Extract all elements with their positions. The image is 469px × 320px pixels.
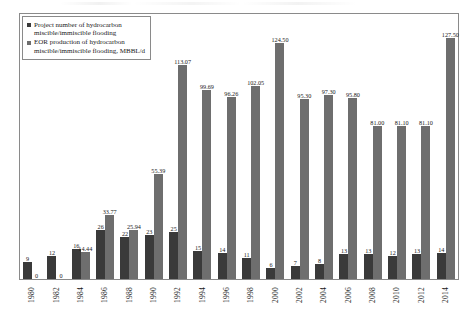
bar-value-label: 9	[26, 255, 29, 262]
legend-swatch-project-number	[27, 23, 31, 27]
bar-value-label: 81.00	[370, 119, 384, 126]
x-axis-tick-label: 2000	[264, 282, 288, 301]
x-axis-tick-label: 1996	[215, 282, 239, 301]
bar-project-number[interactable]	[169, 232, 178, 279]
bar-value-label: 11	[244, 251, 250, 258]
bar-project-number[interactable]	[388, 256, 397, 279]
bar-project-number[interactable]	[364, 254, 373, 279]
bar-project-number[interactable]	[96, 230, 105, 279]
bar-eor-production[interactable]	[227, 97, 236, 279]
bar-eor-production[interactable]	[324, 95, 333, 279]
bar-eor-production[interactable]	[105, 215, 114, 279]
bar-eor-production[interactable]	[397, 126, 406, 280]
bar-value-label: 25	[171, 225, 177, 232]
bar-eor-production[interactable]	[251, 86, 260, 279]
bar-value-label: 0	[35, 272, 38, 279]
bar-slot-eor-production: 127.50	[446, 38, 455, 279]
bar-project-number[interactable]	[47, 256, 56, 279]
bar-slot-eor-production: 14.44	[81, 252, 90, 279]
bar-eor-production[interactable]	[421, 126, 430, 280]
bar-slot-project-number: 11	[242, 258, 251, 279]
x-axis-tick-label: 2006	[337, 282, 361, 301]
bar-value-label: 124.50	[271, 36, 288, 43]
bar-value-label: 15	[195, 244, 201, 251]
bar-slot-eor-production: 102.05	[251, 86, 260, 279]
x-axis-tick-labels: 1980198219841986198819901992199419961998…	[20, 282, 458, 320]
bar-slot-project-number: 8	[315, 264, 324, 279]
x-axis-tick-label: 1990	[142, 282, 166, 301]
x-axis-tick-label: 2004	[312, 282, 336, 301]
bar-value-label: 95.30	[297, 92, 311, 99]
bar-project-number[interactable]	[266, 268, 275, 279]
bar-eor-production[interactable]	[81, 252, 90, 279]
legend-item-eor-production: EOR production of hydrocarbon miscible/i…	[26, 38, 145, 55]
bar-value-label: 25.94	[127, 223, 141, 230]
bar-eor-production[interactable]	[178, 65, 187, 279]
bar-group: 1381.10	[409, 14, 433, 279]
x-axis-tick-label: 1982	[45, 282, 69, 301]
bar-group: 1381.00	[361, 14, 385, 279]
bar-slot-project-number: 7	[291, 266, 300, 279]
bar-eor-production[interactable]	[300, 99, 309, 279]
bar-slot-eor-production: 33.77	[105, 215, 114, 279]
bar-slot-eor-production: 113.07	[178, 65, 187, 279]
bar-project-number[interactable]	[23, 262, 32, 279]
bar-project-number[interactable]	[291, 266, 300, 279]
bar-group: 14127.50	[434, 14, 458, 279]
bar-value-label: 14	[438, 246, 444, 253]
chart-legend: Project number of hydrocarbon miscible/i…	[22, 16, 151, 60]
bar-group: 1281.10	[385, 14, 409, 279]
bar-project-number[interactable]	[437, 253, 446, 280]
bar-slot-eor-production: 95.80	[348, 98, 357, 279]
bar-value-label: 6	[269, 261, 272, 268]
bar-value-label: 7	[294, 259, 297, 266]
legend-label-project-number: Project number of hydrocarbon miscible/i…	[34, 21, 122, 38]
bar-value-label: 13	[414, 247, 420, 254]
bar-value-label: 26	[98, 223, 104, 230]
bar-group: 897.30	[312, 14, 336, 279]
bar-slot-project-number: 23	[145, 235, 154, 279]
x-axis-tick-label: 1984	[69, 282, 93, 301]
bar-eor-production[interactable]	[129, 230, 138, 279]
bar-value-label: 97.30	[322, 88, 336, 95]
bar-project-number[interactable]	[72, 249, 81, 279]
bar-slot-project-number: 13	[412, 254, 421, 279]
bar-eor-production[interactable]	[373, 126, 382, 279]
bar-value-label: 33.77	[103, 208, 117, 215]
bar-project-number[interactable]	[412, 254, 421, 279]
bar-project-number[interactable]	[145, 235, 154, 279]
bar-project-number[interactable]	[193, 251, 202, 279]
bar-project-number[interactable]	[339, 254, 348, 279]
x-axis-tick-label: 2008	[361, 282, 385, 301]
bar-eor-production[interactable]	[446, 38, 455, 279]
bar-eor-production[interactable]	[348, 98, 357, 279]
bar-slot-project-number: 12	[388, 256, 397, 279]
x-axis-tick-label: 2010	[385, 282, 409, 301]
bar-value-label: 81.10	[419, 119, 433, 126]
bar-value-label: 95.80	[346, 91, 360, 98]
legend-swatch-eor-production	[27, 41, 31, 45]
bar-slot-eor-production: 25.94	[129, 230, 138, 279]
bar-value-label: 102.05	[247, 79, 264, 86]
bar-slot-eor-production: 97.30	[324, 95, 333, 279]
bar-value-label: 23	[146, 228, 152, 235]
bar-project-number[interactable]	[315, 264, 324, 279]
bar-group: 1496.26	[215, 14, 239, 279]
bar-slot-project-number: 13	[339, 254, 348, 279]
bar-eor-production[interactable]	[275, 43, 284, 279]
bar-slot-eor-production: 124.50	[275, 43, 284, 279]
bar-value-label: 99.69	[200, 83, 214, 90]
bar-eor-production[interactable]	[202, 90, 211, 279]
bar-group: 795.30	[288, 14, 312, 279]
bar-project-number[interactable]	[242, 258, 251, 279]
bar-slot-eor-production: 55.39	[154, 174, 163, 279]
x-axis-tick-label: 2002	[288, 282, 312, 301]
bar-slot-eor-production: 81.10	[397, 126, 406, 280]
bar-project-number[interactable]	[218, 253, 227, 280]
bar-eor-production[interactable]	[154, 174, 163, 279]
bar-project-number[interactable]	[120, 237, 129, 279]
x-axis-tick-label: 1994	[191, 282, 215, 301]
bar-value-label: 81.10	[395, 119, 409, 126]
bar-slot-eor-production: 81.00	[373, 126, 382, 279]
bar-slot-eor-production: 99.69	[202, 90, 211, 279]
